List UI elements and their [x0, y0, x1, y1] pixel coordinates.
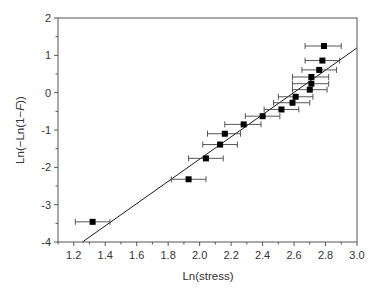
- axes-frame: [58, 18, 357, 242]
- square-marker: [308, 74, 314, 80]
- square-marker: [308, 81, 314, 87]
- square-marker: [319, 58, 325, 64]
- plot-frame: [58, 18, 357, 242]
- square-marker: [316, 67, 322, 73]
- square-marker: [278, 106, 284, 112]
- square-marker: [307, 87, 313, 93]
- x-tick-label: 1.6: [129, 249, 144, 261]
- y-tick-label: 0: [45, 87, 51, 99]
- error-bars: [75, 43, 341, 225]
- square-marker: [222, 131, 228, 137]
- x-tick-label: 2.8: [318, 249, 333, 261]
- y-axis-ticks: -4-3-2-1012: [41, 12, 58, 248]
- y-tick-label: -2: [41, 161, 51, 173]
- square-marker: [90, 219, 96, 225]
- x-tick-label: 2.2: [223, 249, 238, 261]
- square-marker: [293, 94, 299, 100]
- y-axis-label: Ln(−Ln(1−F)): [14, 96, 26, 164]
- y-tick-label: 2: [45, 12, 51, 24]
- x-axis-label: Ln(stress): [182, 270, 233, 282]
- y-axis-label-part-3: )): [14, 96, 26, 104]
- x-tick-label: 1.8: [161, 249, 176, 261]
- x-tick-label: 3.0: [349, 249, 364, 261]
- y-tick-label: 1: [45, 49, 51, 61]
- x-tick-label: 1.2: [66, 249, 81, 261]
- square-marker: [260, 113, 266, 119]
- x-tick-label: 2.4: [255, 249, 270, 261]
- y-tick-label: -1: [41, 124, 51, 136]
- square-marker: [289, 100, 295, 106]
- square-marker: [321, 43, 327, 49]
- y-tick-label: -3: [41, 199, 51, 211]
- x-axis-ticks: 1.21.41.61.82.02.22.42.62.83.0: [58, 242, 365, 261]
- x-tick-label: 1.4: [98, 249, 113, 261]
- y-axis-label-part-1: Ln(−Ln(1−: [14, 111, 26, 164]
- square-marker: [241, 121, 247, 127]
- square-marker: [186, 176, 192, 182]
- square-marker: [217, 142, 223, 148]
- weibull-chart: 1.21.41.61.82.02.22.42.62.83.0 -4-3-2-10…: [0, 0, 381, 295]
- x-tick-label: 2.0: [192, 249, 207, 261]
- chart-svg: 1.21.41.61.82.02.22.42.62.83.0 -4-3-2-10…: [0, 0, 381, 295]
- square-marker: [203, 155, 209, 161]
- x-tick-label: 2.6: [286, 249, 301, 261]
- y-tick-label: -4: [41, 236, 51, 248]
